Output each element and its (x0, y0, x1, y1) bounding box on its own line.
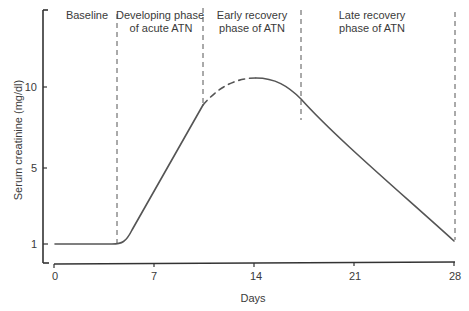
phase-label-late-recovery: phase of ATN (339, 22, 405, 34)
x-tick-label: 7 (151, 270, 157, 282)
phase-label-late-recovery: Late recovery (339, 9, 406, 21)
curve-dashed-peak (203, 78, 256, 105)
serum-creatinine-chart: 10 5 1 0 7 14 21 28 Days Serum creatinin… (0, 0, 469, 311)
creatinine-series (55, 78, 454, 244)
x-tick-labels: 0 7 14 21 28 (52, 270, 461, 282)
phase-boundaries (117, 8, 455, 244)
curve-solid-decline (256, 78, 454, 241)
phase-label-early-recovery: phase of ATN (219, 22, 285, 34)
x-tick-label: 0 (52, 270, 58, 282)
phase-label-baseline: Baseline (66, 9, 108, 21)
y-tick-labels: 10 5 1 (25, 81, 37, 250)
x-tick-label: 28 (449, 270, 461, 282)
phase-label-developing: of acute ATN (130, 22, 193, 34)
phase-label-early-recovery: Early recovery (217, 9, 288, 21)
phase-label-developing: Developing phase (116, 9, 204, 21)
x-axis-label: Days (240, 292, 266, 304)
x-tick-label: 21 (349, 270, 361, 282)
y-tick-label: 5 (31, 162, 37, 174)
y-tick-label: 10 (25, 81, 37, 93)
x-tick-label: 14 (250, 270, 262, 282)
curve-solid-rise (55, 105, 203, 244)
y-tick-label: 1 (31, 238, 37, 250)
phase-labels: Baseline Developing phase of acute ATN E… (66, 9, 406, 34)
y-axis-label: Serum creatinine (mg/dl) (12, 80, 24, 200)
